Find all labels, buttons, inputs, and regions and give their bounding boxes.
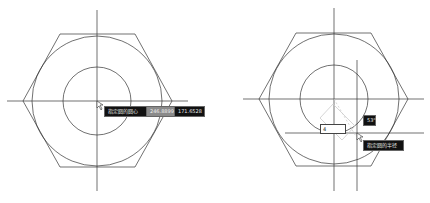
angle-label: 53°	[363, 115, 376, 126]
dynamic-input-prompt: 指定圆的圆心	[104, 106, 148, 117]
coord-x-field[interactable]: 246.8899	[146, 106, 175, 117]
drawing-canvas[interactable]	[0, 0, 430, 203]
radius-prompt: 指定圆的半径	[363, 140, 404, 151]
left-nut-drawing	[7, 10, 188, 191]
right-nut-drawing	[243, 8, 424, 191]
coord-y-field[interactable]: 171.6528	[174, 106, 205, 117]
cursor-arrow-icon	[97, 101, 103, 110]
radius-input[interactable]: 4	[320, 124, 346, 134]
rubber-band-preview	[320, 104, 355, 140]
left-hexagon	[23, 34, 172, 167]
